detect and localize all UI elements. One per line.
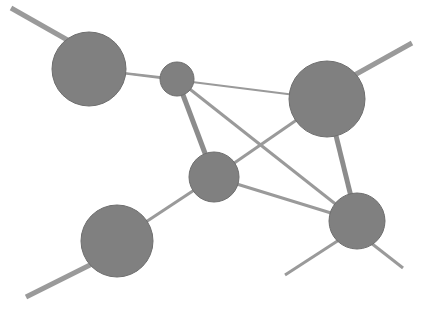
graph-node-top-right-node[interactable]	[289, 61, 365, 137]
network-graph-canvas	[0, 0, 421, 310]
network-graph-svg	[0, 0, 421, 310]
graph-node-top-left-node[interactable]	[52, 32, 126, 106]
pendant-edge-p1	[11, 8, 71, 42]
pendant-edge-p4	[285, 240, 339, 275]
graph-node-bottom-right-node[interactable]	[329, 193, 385, 249]
graph-node-middle-node[interactable]	[189, 152, 239, 202]
graph-node-bottom-left-node[interactable]	[81, 205, 153, 277]
node-layer	[52, 32, 385, 277]
pendant-edge-p3	[26, 262, 96, 297]
pendant-edge-p2	[351, 43, 412, 77]
pendant-edge-p5	[371, 243, 403, 268]
graph-node-small-center-node[interactable]	[160, 62, 194, 96]
